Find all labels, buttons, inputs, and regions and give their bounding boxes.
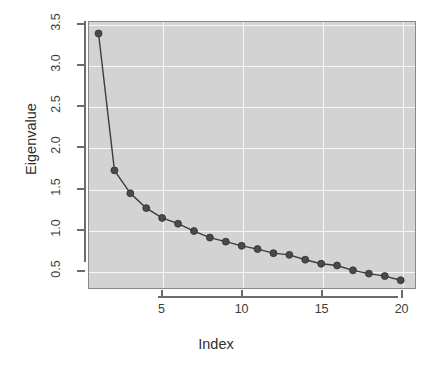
data-point (143, 205, 150, 212)
x-axis-tick (321, 290, 323, 298)
x-axis-title: Index (0, 336, 432, 352)
data-point (381, 273, 388, 280)
x-axis-tick-label: 20 (382, 302, 422, 316)
y-axis-tick-label: 3.5 (49, 4, 63, 40)
data-point (190, 228, 197, 235)
data-point (350, 267, 357, 274)
y-axis-tick (77, 229, 85, 231)
x-axis-tick-label: 5 (142, 302, 182, 316)
data-point (254, 246, 261, 253)
plot-panel (88, 21, 416, 289)
eigenvalue-markers (95, 30, 404, 284)
x-axis-tick (401, 290, 403, 298)
x-axis-tick-label: 10 (222, 302, 262, 316)
y-axis-tick (77, 23, 85, 25)
x-axis-tick-label: 15 (302, 302, 342, 316)
x-axis-line (158, 296, 398, 298)
data-point (397, 277, 404, 284)
data-point (222, 238, 229, 245)
data-point (270, 250, 277, 257)
data-point (365, 270, 372, 277)
data-point (95, 30, 102, 37)
y-axis-tick (77, 64, 85, 66)
data-point (206, 234, 213, 241)
y-axis-tick-label: 2.5 (49, 86, 63, 122)
y-axis-tick (77, 146, 85, 148)
y-axis-tick (77, 105, 85, 107)
data-point (111, 167, 118, 174)
data-point (286, 251, 293, 258)
data-point (127, 190, 134, 197)
y-axis-tick-label: 2.0 (49, 127, 63, 163)
y-axis-tick (77, 270, 85, 272)
y-axis-tick (77, 188, 85, 190)
eigenvalue-line (99, 34, 401, 281)
data-point (159, 214, 166, 221)
y-axis-line (84, 21, 86, 262)
scree-plot-figure: 0.51.01.52.02.53.03.55101520 Eigenvalue … (0, 0, 432, 378)
data-point (302, 256, 309, 263)
data-point (238, 242, 245, 249)
data-point (318, 260, 325, 267)
y-axis-tick-label: 1.5 (49, 169, 63, 205)
y-axis-tick-label: 1.0 (49, 210, 63, 246)
series-layer (89, 22, 415, 288)
y-axis-tick-label: 0.5 (49, 251, 63, 287)
x-axis-tick (161, 290, 163, 298)
y-axis-title: Eigenvalue (23, 79, 39, 199)
data-point (334, 262, 341, 269)
data-point (175, 220, 182, 227)
x-axis-tick (241, 290, 243, 298)
y-axis-tick-label: 3.0 (49, 45, 63, 81)
